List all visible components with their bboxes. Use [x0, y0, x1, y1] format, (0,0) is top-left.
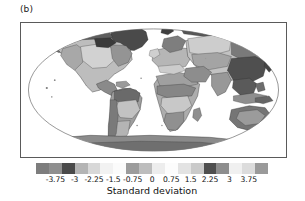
colorbar-cell-1 [49, 163, 62, 174]
island-marker [54, 79, 56, 81]
world-map-plot [21, 23, 286, 157]
region-new-zealand [273, 124, 283, 136]
colorbar-cell-16 [242, 163, 255, 174]
island-marker [136, 125, 138, 127]
island-marker [140, 77, 142, 79]
region-arctic-islands [79, 24, 111, 32]
colorbar-cell-5 [100, 163, 113, 174]
colorbar-cell-0 [36, 163, 49, 174]
colorbar-strip [36, 163, 268, 174]
colorbar-cell-14 [216, 163, 229, 174]
colorbar: -3.75-3-2.25-1.5-0.7500.751.52.2533.75 [36, 163, 268, 187]
panel-label: (b) [20, 4, 33, 14]
map-axes-frame [20, 22, 287, 158]
colorbar-tick-10: 3.75 [240, 175, 257, 184]
colorbar-tick-5: 0 [150, 175, 155, 184]
colorbar-cell-17 [255, 163, 268, 174]
colorbar-tick-2: -2.25 [84, 175, 103, 184]
island-marker [46, 87, 48, 89]
region-antarctica-inner [37, 141, 271, 155]
colorbar-tick-7: 1.5 [185, 175, 197, 184]
colorbar-cell-2 [62, 163, 75, 174]
colorbar-cell-13 [204, 163, 217, 174]
colorbar-tick-6: 0.75 [163, 175, 180, 184]
colorbar-tick-9: 3 [227, 175, 232, 184]
colorbar-title: Standard deviation [36, 185, 268, 196]
region-sahel [157, 84, 196, 98]
colorbar-cell-9 [152, 163, 165, 174]
island-marker [205, 58, 206, 59]
colorbar-tick-3: -1.5 [106, 175, 120, 184]
colorbar-tick-8: 2.25 [202, 175, 219, 184]
colorbar-tick-0: -3.75 [46, 175, 65, 184]
island-marker [271, 138, 273, 140]
colorbar-cell-6 [113, 163, 126, 174]
colorbar-cell-8 [139, 163, 152, 174]
colorbar-cell-10 [165, 163, 178, 174]
island-marker [51, 96, 53, 98]
colorbar-cell-11 [178, 163, 191, 174]
colorbar-cell-4 [88, 163, 101, 174]
colorbar-tick-1: -3 [71, 175, 78, 184]
colorbar-cell-7 [126, 163, 139, 174]
island-marker [280, 89, 282, 91]
island-marker [161, 125, 162, 126]
colorbar-cell-3 [75, 163, 88, 174]
colorbar-cell-12 [191, 163, 204, 174]
colorbar-cell-15 [229, 163, 242, 174]
figure-panel-b: (b) [0, 0, 305, 201]
colorbar-tick-4: -0.75 [123, 175, 142, 184]
